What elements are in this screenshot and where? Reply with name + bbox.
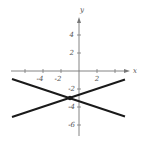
intersection-point	[68, 96, 72, 100]
x-tick-label: -2	[55, 75, 62, 83]
y-tick-label: -6	[68, 121, 75, 129]
x-tick-label: 2	[94, 75, 100, 83]
x-axis: -4 -2 2 x	[11, 67, 137, 83]
y-tick-label: 4	[69, 31, 74, 39]
coordinate-plane: -4 -2 2 x 4 2 -2 -4 -6 y	[0, 0, 146, 142]
x-axis-arrow-icon	[124, 69, 130, 73]
y-tick-label: 2	[69, 49, 75, 57]
y-tick-label: -4	[68, 103, 75, 111]
y-tick-label: -2	[68, 85, 75, 93]
x-axis-label: x	[133, 67, 137, 75]
y-axis-arrow-icon	[77, 17, 81, 23]
y-axis-label: y	[79, 6, 85, 14]
x-tick-label: -4	[37, 75, 44, 83]
